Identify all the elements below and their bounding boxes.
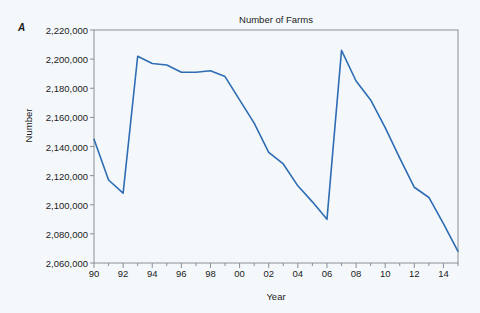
plot-area [0,0,480,313]
plot-frame [94,30,458,263]
data-line [94,50,458,251]
chart-figure: A Number of Farms Number Year 2,060,0002… [0,0,480,313]
